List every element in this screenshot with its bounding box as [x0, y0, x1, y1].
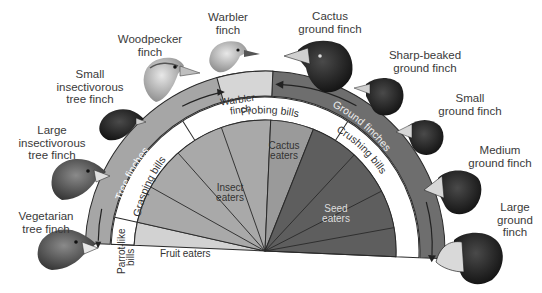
label-line: tree finch: [44, 93, 136, 106]
warbler-finch-head-icon: [209, 41, 260, 72]
label-line: Woodpecker: [110, 33, 190, 46]
label-line: insectivorous: [44, 81, 136, 94]
label-line: Large: [6, 124, 98, 137]
label-line: Cactus: [290, 10, 370, 23]
seed-eaters-line2: eaters: [322, 213, 350, 224]
large-ground-finch-label: Large ground finch: [490, 201, 540, 239]
small-insectivorous-tree-finch-label: Small insectivorous tree finch: [44, 68, 136, 106]
cactus-ground-finch-label: Cactus ground finch: [290, 10, 370, 35]
label-line: ground finch: [430, 105, 510, 118]
large-insectivorous-tree-finch-label: Large insectivorous tree finch: [6, 124, 98, 162]
cactus-eaters-line2: eaters: [270, 150, 298, 161]
label-line: Large: [490, 201, 540, 214]
insect-eaters-line2: eaters: [216, 192, 244, 203]
label-line: Warbler: [200, 11, 256, 24]
large-ground-finch-head-icon: [436, 233, 503, 284]
small-ground-finch-label: Small ground finch: [430, 92, 510, 117]
label-line: Medium: [460, 144, 540, 157]
label-line: finch: [490, 226, 540, 239]
label-line: finch: [200, 24, 256, 37]
vegetarian-tree-finch-label: Vegetarian tree finch: [8, 210, 84, 235]
label-line: finch: [110, 46, 190, 59]
label-line: tree finch: [8, 223, 84, 236]
medium-ground-finch-label: Medium ground finch: [460, 144, 540, 169]
label-line: ground finch: [460, 157, 540, 170]
label-line: Vegetarian: [8, 210, 84, 223]
label-line: insectivorous: [6, 137, 98, 150]
label-line: ground finch: [290, 23, 370, 36]
woodpecker-finch-label: Woodpecker finch: [110, 33, 190, 58]
label-line: tree finch: [6, 149, 98, 162]
label-line: ground: [490, 214, 540, 227]
label-line: Sharp-beaked: [380, 49, 470, 62]
parrot-bills-line2: bills: [125, 249, 136, 266]
label-line: Small: [44, 68, 136, 81]
fruit-eaters-label: Fruit eaters: [160, 248, 211, 259]
label-line: ground finch: [380, 62, 470, 75]
sharp-beaked-ground-finch-label: Sharp-beaked ground finch: [380, 49, 470, 74]
label-line: Small: [430, 92, 510, 105]
warbler-finch-label: Warbler finch: [200, 11, 256, 36]
